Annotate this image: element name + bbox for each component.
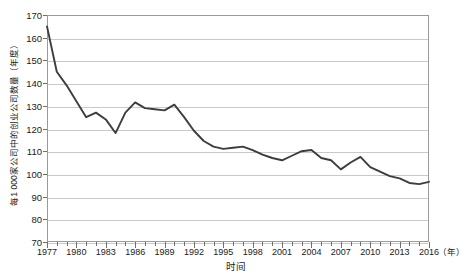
y-axis-tick-mark [43,151,47,152]
y-axis-tick-mark [43,174,47,175]
x-axis-tick-mark [184,242,185,246]
y-axis-tick-label: 130 [2,100,42,111]
x-axis-tick-mark [233,242,234,246]
x-axis-title: 时间 [0,259,472,273]
x-axis-tick-mark [419,242,420,246]
y-axis-tick-mark [43,197,47,198]
y-axis-tick-mark [43,219,47,220]
x-axis-tick-mark [331,242,332,246]
y-axis-tick-label: 100 [2,168,42,179]
x-axis-tick-mark [302,242,303,246]
x-axis-tick-mark [145,242,146,246]
x-axis-tick-mark [86,242,87,246]
y-axis-tick-label: 110 [2,146,42,157]
x-axis-tick-mark [57,242,58,246]
y-axis-tick-label: 140 [2,78,42,89]
y-axis-tick-mark [43,129,47,130]
x-axis-tick-mark [204,242,205,246]
x-axis-tick-mark [214,242,215,246]
x-axis-tick-mark [272,242,273,246]
x-axis-tick-mark [116,242,117,246]
y-axis-tick-label: 150 [2,55,42,66]
x-axis-tick-mark [174,242,175,246]
x-axis-unit-label: （年） [438,245,465,257]
x-axis-tick-mark [262,242,263,246]
y-axis-tick-mark [43,38,47,39]
x-axis-tick-mark [155,242,156,246]
y-axis-tick-label: 170 [2,10,42,21]
x-axis-tick-mark [409,242,410,246]
x-axis-tick-mark [292,242,293,246]
y-axis-tick-label: 90 [2,191,42,202]
y-axis-tick-mark [43,106,47,107]
y-axis-tick-mark [43,83,47,84]
x-axis-tick-mark [243,242,244,246]
x-axis-tick-mark [390,242,391,246]
x-axis-tick-mark [380,242,381,246]
series-line [47,15,429,242]
x-axis-tick-mark [351,242,352,246]
x-axis-tick-mark [321,242,322,246]
y-axis-tick-mark [43,60,47,61]
y-axis-tick-label: 160 [2,32,42,43]
y-axis-tick-mark [43,15,47,16]
y-axis-tick-label: 120 [2,123,42,134]
chart-figure: 每1 000家公司中的创业公司数量（年度） 708090100110120130… [0,0,472,279]
x-axis-tick-mark [125,242,126,246]
x-axis-tick-mark [67,242,68,246]
x-axis-tick-mark [360,242,361,246]
y-axis-tick-label: 70 [2,237,42,248]
y-axis-tick-label: 80 [2,214,42,225]
x-axis-tick-mark [96,242,97,246]
